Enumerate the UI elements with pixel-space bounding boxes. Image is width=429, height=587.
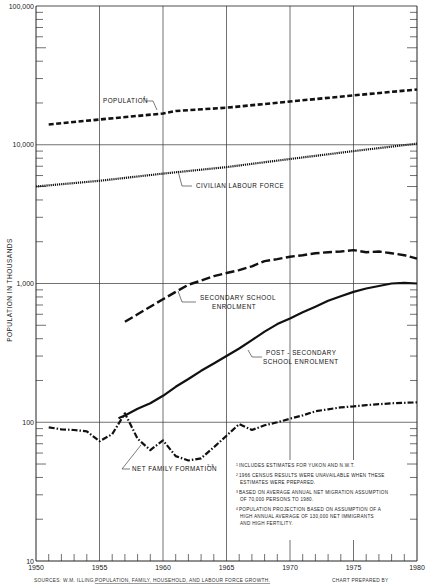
label-post-secondary: POST - SECONDARY SCHOOL ENROLMENT (248, 349, 339, 365)
net-family-label: NET FAMILY FORMATION (132, 465, 217, 472)
post-secondary-leader (248, 350, 262, 357)
x-tick-label-1955: 1955 (92, 564, 108, 571)
label-secondary: SECONDARY SCHOOL ENROLMENT (178, 291, 276, 310)
secondary-label-line1: SECONDARY SCHOOL (200, 294, 276, 301)
footnote-text-4: AND HIGH FERTILITY. (240, 521, 293, 526)
sources-title: POPULATION, FAMILY, HOUSEHOLD, AND LABOU… (95, 578, 270, 583)
footnote-text-4: HIGH ANNUAL AVERAGE OF 130,000 NET IMMIG… (240, 514, 374, 519)
y-tick-label-10,000: 10,000 (13, 141, 35, 148)
labour-leader (178, 171, 192, 186)
label-labour-force: CIVILIAN LABOUR FORCE (178, 171, 284, 189)
footnote-text-4: POPULATION PROJECTION BASED ON ASSUMPTIO… (239, 507, 382, 512)
secondary-leader (178, 291, 196, 302)
population-superscript: 4 (143, 95, 146, 100)
footnotes: 1INCLUDES ESTIMATES FOR YUKON AND N.W.T.… (232, 460, 392, 540)
chart-prepared-by: CHART PREPARED BY (332, 578, 389, 583)
series-line-population (49, 90, 417, 125)
footnote-text-3: OF 70,000 PERSONS TO 1980. (240, 497, 314, 502)
label-population: POPULATION 4 (103, 95, 157, 110)
sources-prefix: SOURCES: W.M. ILLING, (34, 578, 95, 583)
x-tick-label-1980: 1980 (409, 564, 425, 571)
x-tick-label-1975: 1975 (346, 564, 362, 571)
footnote-mark-2: 2 (236, 473, 238, 477)
x-tick-label-1950: 1950 (28, 564, 44, 571)
footnote-text-2: 1966 CENSUS RESULTS WERE UNAVAILABLE WHE… (239, 473, 385, 478)
footnote-text-1: INCLUDES ESTIMATES FOR YUKON AND N.W.T. (239, 463, 355, 468)
net-family-superscript: 2,3 (207, 463, 214, 468)
footnote-mark-1: 1 (236, 463, 238, 467)
footnote-mark-3: 3 (236, 490, 238, 494)
series-line-net-family-formation (49, 402, 417, 460)
x-tick-label-1965: 1965 (219, 564, 235, 571)
chart: 1950195519601965197019751980101001,00010… (0, 0, 429, 587)
y-tick-label-100,000: 100,000 (9, 3, 34, 10)
x-tick-label-1970: 1970 (282, 564, 298, 571)
population-label: POPULATION (103, 97, 148, 104)
y-tick-label-100: 100 (22, 419, 34, 426)
footnote-text-3: BASED ON AVERAGE ANNUAL NET MIGRATION AS… (239, 490, 388, 495)
labour-label: CIVILIAN LABOUR FORCE (196, 182, 284, 189)
footnote-text-2: ESTIMATES WERE PREPARED. (240, 480, 315, 485)
footnote-mark-4: 4 (236, 507, 238, 511)
series-line-secondary-school-enrolment (125, 250, 417, 322)
post-secondary-label-line2: SCHOOL ENROLMENT (263, 358, 339, 365)
y-tick-label-1,000: 1,000 (16, 280, 34, 287)
secondary-label-line2: ENROLMENT (212, 303, 256, 310)
y-axis-title: POPULATION IN THOUSANDS (6, 238, 13, 342)
y-tick-label-10: 10 (26, 558, 34, 565)
post-secondary-label-line1: POST - SECONDARY (266, 349, 337, 356)
x-tick-label-1960: 1960 (155, 564, 171, 571)
